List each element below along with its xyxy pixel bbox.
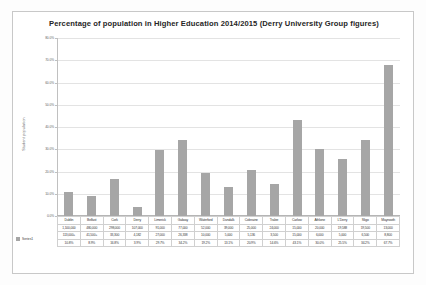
table-cell: 6,500 (354, 232, 377, 240)
table-cell: 5,136 (240, 232, 263, 240)
y-axis-tick-label: 10.0% (45, 192, 54, 196)
table-cell: Waterford (194, 217, 217, 225)
table-cell: Maynooth (377, 217, 400, 225)
bar-slot (240, 38, 263, 216)
table-cell: 10,000 (194, 232, 217, 240)
bar-athlone (315, 149, 324, 216)
bar-slot (126, 38, 149, 216)
table-cell: Belfast (80, 217, 103, 225)
bar-slot (377, 38, 400, 216)
table-cell: 41,500+ (80, 232, 103, 240)
bar-slot (331, 38, 354, 216)
table-cell: Tralee (263, 217, 286, 225)
table-cell: 5,000 (331, 232, 354, 240)
y-axis-tick-label: 60.0% (45, 81, 54, 85)
bar-dundalk (224, 187, 233, 216)
table-cell: 298,000 (103, 224, 126, 232)
table-cell: 19,500 (354, 224, 377, 232)
table-cell: 15,000 (285, 232, 308, 240)
bar-belfast (87, 196, 96, 216)
table-cell: Galway (171, 217, 194, 225)
table-cell: 34.2% (171, 239, 194, 247)
table-cell: Limerick (149, 217, 172, 225)
bar-coleraine (247, 170, 256, 217)
table-cell: 4,182 (126, 232, 149, 240)
table-cell: 480,000 (80, 224, 103, 232)
table-cell: 3.9% (126, 239, 149, 247)
table-cell: 39,000 (217, 224, 240, 232)
table-cell: 67.7% (377, 239, 400, 247)
y-axis-tick-label: 0.0% (47, 214, 54, 218)
legend-swatch-series1 (16, 237, 20, 241)
bar-cork (110, 179, 119, 216)
table-cell: Carlow (285, 217, 308, 225)
chart-container: Percentage of population in Higher Educa… (12, 11, 414, 274)
table-cell: 1,100,000 (58, 224, 81, 232)
table-cell: Sligo (354, 217, 377, 225)
table-cell: L'Derry (331, 217, 354, 225)
bar-slot (171, 38, 194, 216)
bar-slot (103, 38, 126, 216)
bar-sligo (361, 140, 370, 216)
table-cell: Dublin (58, 217, 81, 225)
chart-title: Percentage of population in Higher Educa… (13, 19, 415, 29)
bar-dublin (64, 192, 73, 216)
table-cell: 13,000 (377, 224, 400, 232)
screenshot-page: Percentage of population in Higher Educa… (0, 0, 426, 285)
bar-carlow (293, 120, 302, 216)
table-cell: 34.2% (354, 239, 377, 247)
table-cell: 19.2% (194, 239, 217, 247)
data-table: DublinBelfastCorkDerryLimerickGalwayWate… (57, 216, 400, 247)
bar-slot (148, 38, 171, 216)
bar-limerick (155, 150, 164, 216)
bar-slot (263, 38, 286, 216)
table-cell: 8.9% (80, 239, 103, 247)
table-cell: 25.5% (331, 239, 354, 247)
bar-slot (80, 38, 103, 216)
table-cell: 24,000 (263, 224, 286, 232)
bar-galway (178, 140, 187, 216)
y-axis-tick-label: 40.0% (45, 125, 54, 129)
table-cell: 10.8% (58, 239, 81, 247)
table-cell: 91,000 (149, 224, 172, 232)
table-cell: Derry (126, 217, 149, 225)
table-cell: 107,000 (126, 224, 149, 232)
table-cell: 19,588 (331, 224, 354, 232)
table-cell: 8,800 (377, 232, 400, 240)
bar-series (57, 38, 400, 216)
table-row: 10.8%8.9%16.8%3.9%29.7%34.2%19.2%13.1%20… (58, 239, 400, 247)
y-axis-title: Student population (22, 104, 26, 164)
bar-waterford (201, 173, 210, 216)
table-cell: 25,000 (240, 224, 263, 232)
table-cell: 6,000 (308, 232, 331, 240)
table-cell: 13.1% (217, 239, 240, 247)
table-row: DublinBelfastCorkDerryLimerickGalwayWate… (58, 217, 400, 225)
table-cell: 15,000 (285, 224, 308, 232)
table-cell: 3,500 (263, 232, 286, 240)
table-cell: 30.0% (308, 239, 331, 247)
table-cell: Coleraine (240, 217, 263, 225)
bar-slot (217, 38, 240, 216)
table-cell: 43.1% (285, 239, 308, 247)
bar-slot (57, 38, 80, 216)
table-cell: Athlone (308, 217, 331, 225)
bar-slot (308, 38, 331, 216)
bar-maynooth (384, 65, 393, 216)
bar-slot (354, 38, 377, 216)
y-axis-tick-label: 30.0% (45, 147, 54, 151)
bar-derry (133, 207, 142, 216)
table-cell: 29.7% (149, 239, 172, 247)
table-cell: 33,300 (103, 232, 126, 240)
y-axis-tick-label: 80.0% (45, 36, 54, 40)
bar-lderry (338, 159, 347, 216)
table-cell: 77,000 (171, 224, 194, 232)
table-cell: 26,338 (171, 232, 194, 240)
bar-slot (286, 38, 309, 216)
legend-label-series1: Series1 (22, 237, 33, 241)
table-cell: 113,000+ (58, 232, 81, 240)
table-cell: 20,000 (308, 224, 331, 232)
table-cell: 5,000 (217, 232, 240, 240)
bar-tralee (270, 184, 279, 216)
y-axis-tick-label: 20.0% (45, 170, 54, 174)
table-cell: Cork (103, 217, 126, 225)
